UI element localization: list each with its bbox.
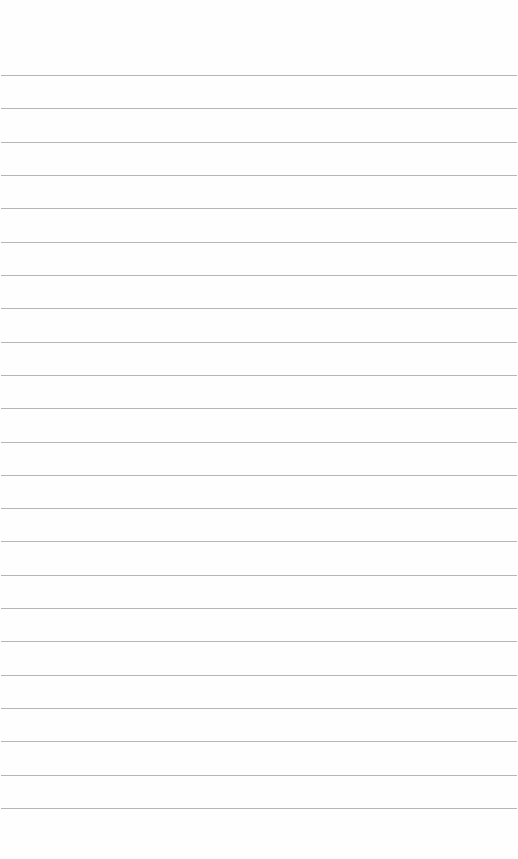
ruled-line [1,308,517,309]
ruled-line [1,75,517,76]
ruled-line [1,708,517,709]
ruled-line [1,741,517,742]
ruled-line [1,475,517,476]
ruled-line [1,342,517,343]
lined-paper-page [0,0,518,859]
ruled-line [1,242,517,243]
ruled-line [1,508,517,509]
ruled-line [1,175,517,176]
ruled-line [1,408,517,409]
ruled-line [1,808,517,809]
ruled-line [1,442,517,443]
ruled-line [1,275,517,276]
ruled-line [1,142,517,143]
ruled-line [1,375,517,376]
ruled-line [1,541,517,542]
ruled-line [1,675,517,676]
ruled-line [1,575,517,576]
ruled-line [1,775,517,776]
ruled-line [1,208,517,209]
ruled-line [1,608,517,609]
ruled-line [1,641,517,642]
ruled-line [1,108,517,109]
